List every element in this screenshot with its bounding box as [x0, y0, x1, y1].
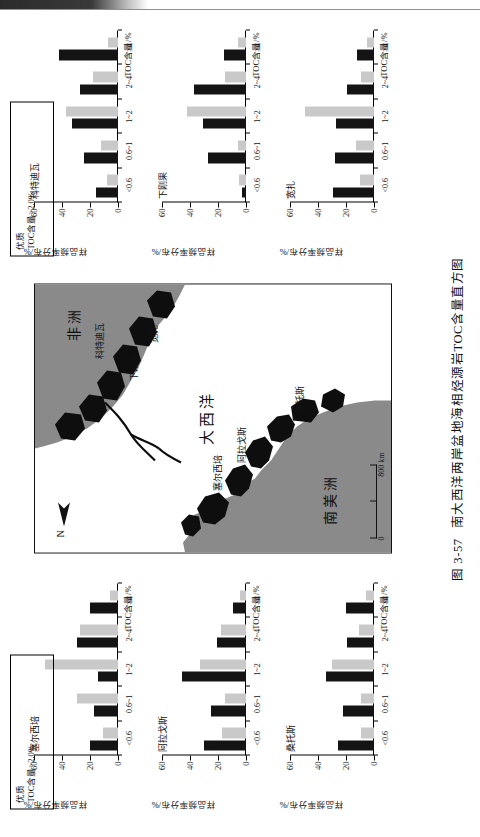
x-axis-tick: [118, 582, 122, 583]
y-axis-tick: [162, 202, 163, 207]
x-axis-tick-label: 0.6~1: [125, 694, 134, 712]
y-axis-tick: [290, 202, 291, 207]
y-axis-title: 样品频率分布/%: [152, 799, 215, 811]
map-label-basin-cote-divoire: 科特迪瓦: [93, 322, 106, 358]
bar-dark: [182, 671, 246, 681]
y-axis-tick-label: 20: [342, 208, 350, 228]
bar-dark: [233, 602, 246, 612]
bar-dark: [326, 671, 374, 681]
bar-light: [305, 106, 374, 116]
x-axis-tick: [246, 651, 250, 652]
x-axis-title: TOC含量/%: [377, 32, 389, 76]
scale-bar-min: 0: [377, 536, 386, 540]
map-label-basin-kwanza: 宽扎: [147, 324, 160, 342]
y-axis-tick: [318, 755, 319, 760]
y-axis-line: [290, 201, 374, 202]
bar-dark: [338, 740, 374, 750]
x-axis-tick: [118, 167, 122, 168]
plot-area: 0204060<0.60.6~11~22~4>4TOC含量/%: [162, 583, 246, 755]
bar-light: [101, 140, 118, 150]
y-axis-tick-label: 40: [186, 761, 194, 781]
map-label-basin-sergipe: 塞尔西培: [211, 454, 224, 490]
bar-light: [225, 693, 246, 703]
y-axis-tick-label: 40: [314, 761, 322, 781]
bar-light: [238, 140, 246, 150]
x-axis-tick-label: 1~2: [125, 663, 134, 675]
y-axis-tick-label: 0: [242, 208, 250, 228]
bar-light: [187, 106, 246, 116]
x-axis-tick-label: 0.6~1: [381, 141, 390, 159]
y-axis-tick-label: 20: [342, 761, 350, 781]
y-axis-tick: [90, 202, 91, 207]
x-axis-tick-label: 2~4: [381, 628, 390, 640]
x-axis-tick: [246, 201, 250, 202]
y-axis-tick-label: 0: [370, 761, 378, 781]
bar-dark: [90, 740, 118, 750]
bar-dark: [194, 84, 246, 94]
high-quality-callout-box: 优质TOC含量>2.0%: [10, 654, 54, 809]
y-axis-tick-label: 60: [158, 208, 166, 228]
x-axis-tick: [374, 132, 378, 133]
y-axis-tick-label: 40: [58, 208, 66, 228]
x-axis-tick: [246, 98, 250, 99]
x-axis-tick-label: 1~2: [253, 110, 262, 122]
bar-light: [361, 728, 374, 738]
y-axis-tick: [290, 755, 291, 760]
bar-light: [238, 37, 246, 47]
y-axis-tick-label: 0: [370, 208, 378, 228]
y-axis-tick-label: 60: [158, 761, 166, 781]
y-axis-tick: [374, 755, 375, 760]
bar-light: [239, 175, 246, 185]
bar-dark: [80, 84, 118, 94]
bar-dark: [346, 602, 374, 612]
figure-number: 图 3-57: [451, 538, 465, 581]
north-arrow-label: N: [55, 530, 66, 537]
figure-page: 塞尔西培样品频率分布/%0204060<0.60.6~11~22~4>4TOC含…: [0, 0, 480, 837]
histogram-panel-科特迪瓦: 科特迪瓦样品频率分布/%0204060<0.60.6~11~22~4>4TOC含…: [26, 26, 148, 258]
y-axis-tick-label: 0: [242, 761, 250, 781]
y-axis-tick: [62, 755, 63, 760]
y-axis-tick-label: 20: [86, 208, 94, 228]
north-arrow-glyph: [57, 494, 71, 528]
x-axis-tick-label: 0.6~1: [381, 694, 390, 712]
map-label-basin-alagoas: 阿拉戈斯: [235, 426, 248, 462]
x-axis-tick: [246, 29, 250, 30]
x-axis-title: TOC含量/%: [121, 32, 133, 76]
bar-light: [240, 590, 246, 600]
x-axis-tick: [118, 132, 122, 133]
x-axis-tick-label: <0.6: [253, 178, 262, 193]
x-axis-tick-label: 0.6~1: [125, 141, 134, 159]
bar-light: [103, 728, 118, 738]
x-axis-tick: [374, 201, 378, 202]
bar-dark: [94, 705, 118, 715]
x-axis-tick-label: 1~2: [381, 663, 390, 675]
bar-dark: [357, 49, 374, 59]
x-axis-tick-label: <0.6: [125, 731, 134, 746]
bar-dark: [336, 118, 374, 128]
bar-light: [359, 624, 374, 634]
x-axis-tick: [374, 754, 378, 755]
y-axis-tick: [218, 202, 219, 207]
histogram-panel-桑托斯: 桑托斯样品频率分布/%0204060<0.60.6~11~22~4>4TOC含量…: [282, 579, 404, 811]
bar-dark: [72, 118, 118, 128]
y-axis-tick-label: 0: [114, 208, 122, 228]
bar-light: [332, 659, 374, 669]
bar-light: [77, 693, 118, 703]
bar-light: [80, 624, 118, 634]
x-axis-title: TOC含量/%: [121, 585, 133, 629]
y-axis-tick-label: 40: [314, 208, 322, 228]
x-axis-tick: [246, 685, 250, 686]
y-axis-line: [162, 201, 246, 202]
map-label-basin-lower-congo: 下刚果: [127, 353, 140, 380]
bar-light: [107, 175, 118, 185]
bar-light: [45, 659, 118, 669]
bar-light: [222, 728, 246, 738]
y-axis-title: 样品频率分布/%: [280, 246, 343, 258]
x-axis-tick-label: <0.6: [381, 731, 390, 746]
bar-dark: [96, 187, 118, 197]
map-label-basin-santos: 桑托斯: [293, 385, 306, 412]
x-axis-tick: [118, 754, 122, 755]
figure-caption-text: 南大西洋两岸盆地海相烃源岩TOC含量直方图: [451, 257, 465, 528]
x-axis-tick-label: 1~2: [381, 110, 390, 122]
y-axis-tick-label: 20: [214, 208, 222, 228]
